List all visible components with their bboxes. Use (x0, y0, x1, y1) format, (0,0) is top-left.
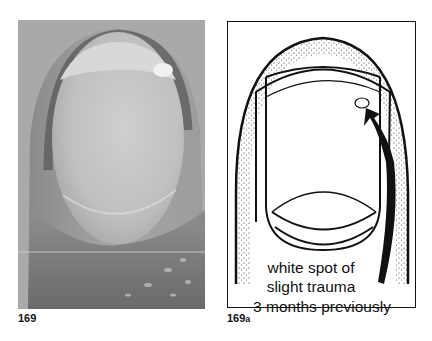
figure-label-169a: 169a (227, 312, 250, 324)
nail-photo-rendering (18, 20, 205, 309)
nail-photograph (18, 20, 205, 309)
figure-label-number: 169 (227, 312, 245, 324)
caption-line-3: 3 months previously (228, 298, 416, 315)
caption-line-2: slight trauma (236, 278, 386, 295)
figure-label-suffix: a (245, 314, 250, 324)
nail-diagram: white spot of slight trauma 3 months pre… (227, 21, 416, 308)
figure-label-169: 169 (18, 312, 36, 324)
caption-line-1: white spot of (236, 259, 386, 276)
